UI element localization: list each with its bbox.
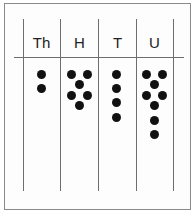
counter-dot-t [112, 113, 121, 122]
counter-dot-u [158, 91, 167, 100]
counter-dot-h [83, 91, 92, 100]
counter-dot-u [150, 80, 159, 89]
counter-dot-h [75, 101, 84, 110]
counter-dot-u [142, 70, 151, 79]
counter-dot-u [150, 116, 159, 125]
column-header-thousands: Th [23, 35, 60, 51]
counter-dot-h [75, 80, 84, 89]
counter-dot-h [83, 70, 92, 79]
counter-dot-t [112, 84, 121, 93]
counter-dot-t [112, 70, 121, 79]
counter-dot-th [37, 84, 46, 93]
counter-dot-u [150, 101, 159, 110]
counter-dot-th [37, 70, 46, 79]
column-divider [173, 19, 174, 191]
column-header-tens: T [99, 35, 136, 51]
header-divider [14, 57, 184, 58]
counter-dot-h [67, 91, 76, 100]
counter-dot-u [158, 70, 167, 79]
counter-dot-t [112, 98, 121, 107]
column-header-hundreds: H [61, 35, 98, 51]
counter-dot-h [67, 70, 76, 79]
column-header-units: U [136, 35, 173, 51]
counter-dot-u [142, 91, 151, 100]
counter-dot-u [150, 130, 159, 139]
